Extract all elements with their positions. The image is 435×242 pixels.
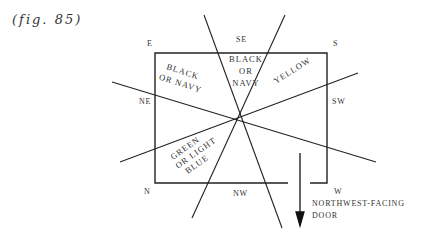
svg-text:OR: OR (239, 66, 253, 76)
compass-se: SE (236, 35, 247, 44)
compass-ne: NE (139, 97, 151, 106)
door-arrow-icon (296, 153, 304, 226)
svg-text:DOOR: DOOR (312, 211, 338, 220)
line-se-nw-right (192, 15, 285, 218)
zone-north: GREEN OR LIGHT BLUE (168, 127, 224, 179)
svg-text:NORTHWEST-FACING: NORTHWEST-FACING (312, 199, 405, 208)
compass-n: N (144, 187, 151, 196)
svg-text:NAVY: NAVY (232, 78, 259, 88)
zone-southwest: YELLOW (272, 55, 313, 86)
compass-w: W (334, 187, 342, 196)
door-caption: NORTHWEST-FACING DOOR (312, 199, 405, 220)
svg-text:YELLOW: YELLOW (272, 55, 313, 86)
svg-text:BLACK: BLACK (229, 54, 263, 64)
bagua-diagram: E SE S NE SW N NW W BLACK OR NAVY BLACK … (0, 0, 435, 242)
compass-s: S (333, 39, 338, 48)
compass-e: E (147, 39, 153, 48)
compass-sw: SW (332, 97, 346, 106)
compass-nw: NW (233, 189, 248, 198)
zone-east: BLACK OR NAVY (158, 60, 207, 95)
zone-southeast: BLACK OR NAVY (229, 54, 263, 88)
